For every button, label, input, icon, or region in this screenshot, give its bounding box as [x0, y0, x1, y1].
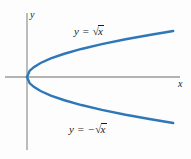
lower-radicand: x	[101, 123, 107, 135]
upper-equals: =	[82, 25, 90, 37]
y-axis-label: y	[30, 10, 35, 20]
curve-lower-neg-sqrt	[27, 77, 173, 123]
plot-canvas	[0, 0, 191, 159]
curve-label-upper: y = √x	[74, 25, 104, 37]
math-figure-sqrt-parabola: y = √x y = −√x y x	[0, 0, 191, 159]
upper-radicand: x	[98, 25, 104, 37]
lower-equals: =	[77, 123, 85, 135]
curve-upper-sqrt	[27, 31, 173, 77]
lower-lhs: y	[69, 123, 74, 135]
curve-label-lower: y = −√x	[69, 123, 107, 135]
x-axis-label: x	[178, 79, 183, 89]
upper-lhs: y	[74, 25, 79, 37]
